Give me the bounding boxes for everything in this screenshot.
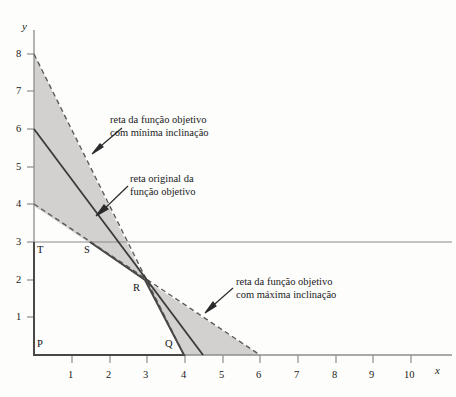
arrow-head-max-slope <box>205 302 216 313</box>
annotation-original: reta original da função objetivo <box>130 173 196 199</box>
annotation-original-line1: reta original da <box>130 173 196 186</box>
vertex-label-Q: Q <box>165 338 173 349</box>
y-tick-label-2: 2 <box>16 274 21 285</box>
x-tick-label-9: 9 <box>369 369 374 380</box>
y-tick-label-3: 3 <box>16 236 21 247</box>
x-tick-label-4: 4 <box>181 369 186 380</box>
x-tick-label-3: 3 <box>143 369 148 380</box>
vertex-label-P: P <box>37 338 43 349</box>
y-tick-label-5: 5 <box>16 161 21 172</box>
x-tick-label-7: 7 <box>294 369 299 380</box>
y-axis-label: y <box>22 20 27 32</box>
annotation-min-slope-line1: reta da função objetivo <box>110 114 209 127</box>
annotation-min-slope-line2: com mínima inclinação <box>110 127 209 140</box>
x-tick-label-1: 1 <box>68 369 73 380</box>
vertex-label-R: R <box>133 282 140 293</box>
annotation-max-slope: reta da função objetivo com máxima incli… <box>236 276 336 302</box>
vertex-label-S: S <box>84 244 90 255</box>
x-tick-label-2: 2 <box>106 369 111 380</box>
y-tick-label-4: 4 <box>16 198 21 209</box>
x-tick-marks <box>72 355 411 363</box>
x-tick-label-10: 10 <box>404 369 415 380</box>
x-tick-label-5: 5 <box>219 369 224 380</box>
x-tick-label-6: 6 <box>256 369 261 380</box>
y-tick-label-6: 6 <box>16 123 21 134</box>
y-tick-label-7: 7 <box>16 85 21 96</box>
x-axis-label: x <box>435 364 440 376</box>
y-tick-label-1: 1 <box>16 311 21 322</box>
figure-canvas: y x 8 7 6 5 4 3 2 1 1 2 3 4 5 6 7 8 9 10… <box>0 0 456 397</box>
annotation-max-slope-line2: com máxima inclinação <box>236 289 336 302</box>
arrow-head-min-slope <box>92 144 103 154</box>
x-tick-label-8: 8 <box>332 369 337 380</box>
vertex-label-T: T <box>37 244 43 255</box>
annotation-max-slope-line1: reta da função objetivo <box>236 276 336 289</box>
y-tick-label-8: 8 <box>16 48 21 59</box>
annotation-original-line2: função objetivo <box>130 186 196 199</box>
annotation-min-slope: reta da função objetivo com mínima incli… <box>110 114 209 140</box>
y-tick-marks <box>27 54 34 317</box>
linear-programming-plot <box>0 0 456 397</box>
